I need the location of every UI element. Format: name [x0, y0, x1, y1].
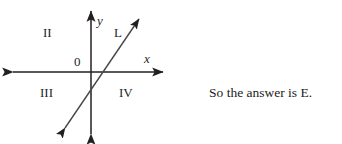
quadrant-label-ii: II — [43, 26, 52, 39]
origin-label: 0 — [74, 55, 81, 68]
coordinate-plane-graphic — [0, 0, 180, 144]
figure-canvas: II III IV 0 y x L So the answer is E. — [0, 0, 342, 144]
y-axis-label: y — [97, 14, 103, 27]
line-L — [65, 19, 139, 128]
x-axis-label: x — [144, 52, 150, 65]
quadrant-label-iv: IV — [119, 86, 133, 99]
quadrant-label-iii: III — [40, 86, 53, 99]
answer-statement: So the answer is E. — [209, 86, 312, 100]
line-label-l: L — [114, 26, 122, 39]
